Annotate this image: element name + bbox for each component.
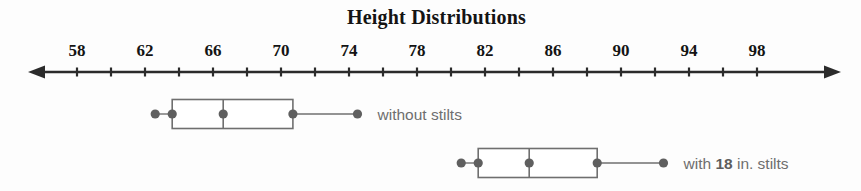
marker-max[interactable] xyxy=(659,158,668,167)
axis-tick-label: 78 xyxy=(409,41,426,60)
axis-tick-label: 62 xyxy=(137,41,154,60)
axis-tick-label: 58 xyxy=(69,41,86,60)
box-plot-canvas: 5862667074788286909498 without stiltswit… xyxy=(0,0,861,191)
axis-tick-label: 82 xyxy=(477,41,494,60)
axis-tick-label: 90 xyxy=(613,41,630,60)
marker-q3[interactable] xyxy=(593,158,602,167)
number-line-axis xyxy=(28,66,841,79)
axis-tick-label: 94 xyxy=(681,41,699,60)
marker-q3[interactable] xyxy=(288,109,297,118)
marker-q1[interactable] xyxy=(168,109,177,118)
axis-tick-label: 74 xyxy=(341,41,359,60)
box-plot-group[interactable]: without stilts xyxy=(151,100,463,129)
box-iqr[interactable] xyxy=(172,100,293,129)
marker-q1[interactable] xyxy=(474,158,483,167)
box-plot-figure: Height Distributions 5862667074788286909… xyxy=(0,0,861,191)
box-plot-group[interactable]: with 18 in. stilts xyxy=(457,149,789,178)
marker-median[interactable] xyxy=(219,109,228,118)
axis-arrow-left-icon xyxy=(28,66,45,79)
series-label: without stilts xyxy=(377,106,463,123)
axis-tick-labels: 5862667074788286909498 xyxy=(69,41,766,60)
marker-median[interactable] xyxy=(525,158,534,167)
axis-tick-label: 66 xyxy=(205,41,222,60)
box-iqr[interactable] xyxy=(478,149,597,178)
marker-max[interactable] xyxy=(353,109,362,118)
marker-min[interactable] xyxy=(457,158,466,167)
marker-min[interactable] xyxy=(151,109,160,118)
axis-tick-label: 98 xyxy=(749,41,766,60)
box-plot-series: without stiltswith 18 in. stilts xyxy=(151,100,789,178)
axis-arrow-right-icon xyxy=(824,66,841,79)
series-label: with 18 in. stilts xyxy=(683,155,789,172)
axis-tick-label: 86 xyxy=(545,41,562,60)
axis-tick-label: 70 xyxy=(273,41,290,60)
